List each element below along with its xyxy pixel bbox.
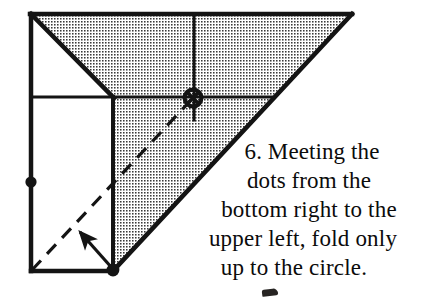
figure-page: 6. Meeting the dots from the bottom righ… [0, 0, 425, 299]
caption-line-3: bottom right to the [198, 195, 420, 224]
white-lower-left-rectangle [31, 97, 113, 271]
caption-line-1: 6. Meeting the [198, 137, 420, 166]
step-caption: 6. Meeting the dots from the bottom righ… [198, 137, 420, 282]
caption-line-4: upper left, fold only [198, 224, 420, 253]
caption-line-2: dots from the [198, 166, 420, 195]
dot-left-edge [25, 176, 36, 187]
dot-bottom-right [107, 264, 120, 277]
caption-line-5: up to the circle. [198, 253, 420, 282]
